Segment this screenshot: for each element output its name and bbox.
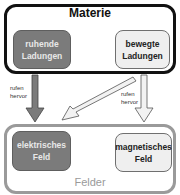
left-arrow-label: rufen hervor bbox=[10, 84, 27, 100]
magnetisches-feld-line2: Feld bbox=[115, 153, 172, 165]
felder-title: Felder bbox=[0, 176, 180, 188]
elektrisches-feld-box: elektrisches Feld bbox=[12, 131, 71, 171]
right-arrow-label-line2: hervor bbox=[121, 98, 138, 106]
elektrisches-feld-line1: elektrisches bbox=[17, 139, 66, 151]
right-arrow-label-line1: rufen bbox=[121, 90, 138, 98]
right-arrow-label: rufen hervor bbox=[121, 90, 138, 106]
left-arrow-label-line2: hervor bbox=[10, 92, 27, 100]
left-arrow-label-line1: rufen bbox=[10, 84, 27, 92]
elektrisches-feld-line2: Feld bbox=[17, 151, 66, 163]
arrow-down-left-icon bbox=[26, 75, 44, 122]
magnetisches-feld-box: magnetisches Feld bbox=[115, 133, 172, 172]
magnetisches-feld-line1: magnetisches bbox=[115, 141, 172, 153]
